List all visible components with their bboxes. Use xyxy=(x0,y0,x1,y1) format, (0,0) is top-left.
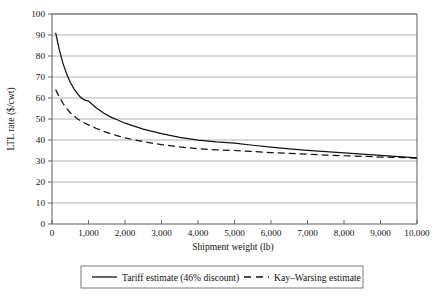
y-tick-label: 100 xyxy=(31,9,45,19)
y-tick-label: 80 xyxy=(36,51,46,61)
x-tick-label: 1,000 xyxy=(78,228,99,238)
x-tick-label: 10,000 xyxy=(404,228,430,238)
y-tick-label: 60 xyxy=(36,93,46,103)
y-tick-label: 20 xyxy=(36,177,46,187)
x-tick-label: 7,000 xyxy=(297,228,318,238)
plot-background xyxy=(0,0,443,298)
y-tick-label: 40 xyxy=(36,135,46,145)
x-tick-label: 6,000 xyxy=(261,228,282,238)
x-tick-label: 8,000 xyxy=(334,228,355,238)
y-tick-label: 90 xyxy=(36,30,46,40)
ltl-rate-line-chart: 01,0002,0003,0004,0005,0006,0007,0008,00… xyxy=(0,0,443,298)
x-axis-title: Shipment weight (lb) xyxy=(192,241,274,253)
y-axis-title: LTL rate ($/cwt) xyxy=(5,87,17,150)
x-tick-label: 0 xyxy=(50,228,55,238)
legend-label-tariff-estimate: Tariff estimate (46% discount) xyxy=(122,272,239,284)
x-tick-label: 5,000 xyxy=(224,228,245,238)
y-tick-label: 70 xyxy=(36,72,46,82)
x-tick-label: 2,000 xyxy=(115,228,136,238)
y-tick-label: 10 xyxy=(36,198,46,208)
y-tick-label: 30 xyxy=(36,156,46,166)
y-tick-label: 50 xyxy=(36,114,46,124)
y-tick-label: 0 xyxy=(40,219,45,229)
x-tick-label: 9,000 xyxy=(370,228,391,238)
x-tick-label: 3,000 xyxy=(151,228,172,238)
x-tick-label: 4,000 xyxy=(188,228,209,238)
legend-label-kay-warsing-estimate: Kay–Warsing estimate xyxy=(274,272,361,283)
chart-legend: Tariff estimate (46% discount) Kay–Warsi… xyxy=(81,266,363,288)
chart-figure: 01,0002,0003,0004,0005,0006,0007,0008,00… xyxy=(0,0,443,298)
